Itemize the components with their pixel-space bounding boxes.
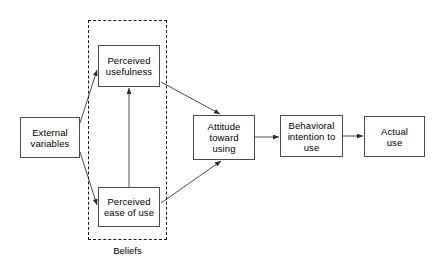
node-label-actual-use: Actual use xyxy=(379,126,410,148)
node-actual-use[interactable]: Actual use xyxy=(364,116,425,157)
beliefs-group-caption: Beliefs xyxy=(88,245,167,256)
diagram-canvas: Beliefs External variables Perceived use… xyxy=(0,0,439,271)
node-label-perceived-ease-of-use: Perceived ease of use xyxy=(102,196,156,218)
node-label-attitude-toward-using: Attitude toward using xyxy=(205,121,242,154)
node-perceived-ease-of-use[interactable]: Perceived ease of use xyxy=(98,187,160,227)
node-label-external-variables: External variables xyxy=(29,127,72,149)
edge-ease-to-attitude xyxy=(161,161,221,203)
edge-usefulness-to-attitude xyxy=(161,82,220,114)
node-behavioral-intention-to-use[interactable]: Behavioral intention to use xyxy=(280,115,343,157)
node-attitude-toward-using[interactable]: Attitude toward using xyxy=(193,115,255,160)
node-external-variables[interactable]: External variables xyxy=(20,117,80,158)
node-perceived-usefulness[interactable]: Perceived usefulness xyxy=(98,45,160,87)
node-label-perceived-usefulness: Perceived usefulness xyxy=(104,55,154,77)
node-label-behavioral-intention-to-use: Behavioral intention to use xyxy=(286,120,338,153)
